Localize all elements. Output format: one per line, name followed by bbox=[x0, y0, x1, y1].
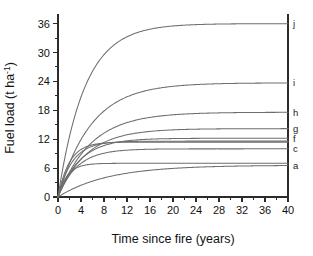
x-tick-label: 16 bbox=[144, 204, 156, 216]
y-axis-title-tail: ) bbox=[3, 62, 17, 66]
x-tick-label: 8 bbox=[101, 204, 107, 216]
curve-label-f: f bbox=[293, 133, 296, 144]
y-tick-label: 30 bbox=[38, 47, 50, 59]
x-tick-label: 12 bbox=[121, 204, 133, 216]
curve-label-c: c bbox=[293, 143, 298, 154]
x-tick-label: 24 bbox=[190, 204, 202, 216]
x-tick-label: 4 bbox=[78, 204, 84, 216]
y-tick-label: 12 bbox=[38, 133, 50, 145]
x-tick-label: 40 bbox=[282, 204, 294, 216]
x-tick-label: 36 bbox=[259, 204, 271, 216]
y-axis-title-main: Fuel load (t ha bbox=[3, 74, 17, 154]
fuel-load-line-chart: 0481216202428323640 061218243036 acfghij… bbox=[0, 0, 313, 256]
x-axis-title: Time since fire (years) bbox=[111, 232, 234, 246]
y-tick-label: 24 bbox=[38, 75, 50, 87]
y-tick-label: 18 bbox=[38, 104, 50, 116]
x-tick-label: 20 bbox=[167, 204, 179, 216]
y-tick-label: 0 bbox=[44, 191, 50, 203]
chart-figure: 0481216202428323640 061218243036 acfghij… bbox=[0, 0, 313, 256]
svg-text:Fuel load (t ha-1): Fuel load (t ha-1) bbox=[2, 62, 17, 154]
y-axis-title: Fuel load (t ha-1) bbox=[2, 62, 17, 154]
curve-label-i: i bbox=[293, 77, 295, 88]
x-tick-label: 32 bbox=[236, 204, 248, 216]
y-tick-label: 36 bbox=[38, 18, 50, 30]
chart-background bbox=[0, 0, 313, 256]
x-tick-label: 28 bbox=[213, 204, 225, 216]
y-tick-label: 6 bbox=[44, 162, 50, 174]
curve-label-g: g bbox=[293, 123, 298, 134]
curve-label-h: h bbox=[293, 107, 298, 118]
curve-label-j: j bbox=[292, 18, 295, 29]
x-tick-label: 0 bbox=[55, 204, 61, 216]
curve-label-a: a bbox=[293, 160, 299, 171]
